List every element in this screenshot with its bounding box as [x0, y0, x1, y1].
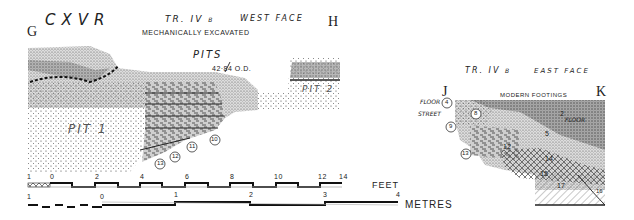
layer-5: 5: [545, 130, 549, 137]
west-face-label: WEST FACE: [240, 14, 304, 23]
feet-tick-0: 0: [50, 173, 54, 180]
metre-tick-1: 1: [27, 193, 31, 200]
west-face-section: [28, 46, 340, 172]
layer-9: 9: [449, 123, 452, 129]
site-code: CXVR: [45, 11, 110, 29]
east-floor-inner: FLOOR: [565, 116, 585, 123]
layer-11: 11: [189, 143, 195, 149]
east-floor-label: FLOOR: [420, 98, 440, 105]
section-drawing: [0, 0, 634, 220]
metre-tick-4: 4: [396, 191, 400, 198]
east-trench-label: TR. IV B: [465, 66, 511, 75]
feet-tick-10: 10: [274, 173, 283, 180]
marker-h: H: [328, 14, 338, 30]
feet-tick-4: 4: [140, 173, 144, 180]
layer-8: 8: [474, 110, 477, 116]
pits-label: PITS: [193, 49, 222, 60]
east-street-label: STREET: [418, 110, 441, 117]
pit1-label: PIT 1: [68, 122, 108, 136]
layer-2: 2: [560, 110, 564, 117]
pit2-label: PIT 2: [302, 84, 334, 94]
marker-g: G: [27, 24, 37, 40]
metre-tick-0: 0: [100, 193, 104, 200]
marker-k: K: [596, 84, 606, 100]
layer-14: 14: [545, 155, 553, 162]
level-od: 42·84 O.D.: [212, 65, 251, 72]
layer-4: 4: [445, 99, 448, 105]
feet-tick-12: 12: [318, 173, 327, 180]
metre-tick-3: 3: [323, 191, 327, 198]
layer-12-east: 12: [503, 143, 511, 150]
feet-tick-14: 14: [339, 173, 348, 180]
metre-tick-2: 2: [249, 191, 253, 198]
layer-17: 17: [557, 182, 565, 189]
feet-tick-6: 6: [185, 173, 189, 180]
excavation-note: MECHANICALLY EXCAVATED: [142, 29, 250, 36]
layer-16: 16: [596, 188, 603, 194]
metre-tick-m1: 1: [174, 191, 178, 198]
west-trench-label: TR. IV B: [165, 14, 214, 24]
layer-13-east: 13: [462, 150, 469, 156]
layer-15: 15: [540, 170, 548, 177]
marker-j: J: [442, 84, 447, 100]
scale-bars: [28, 183, 398, 207]
feet-tick-8: 8: [230, 173, 234, 180]
east-face-label: EAST FACE: [534, 67, 590, 75]
layer-13: 13: [157, 160, 164, 166]
feet-unit: FEET: [372, 180, 399, 190]
feet-tick-2: 2: [95, 173, 99, 180]
layer-12: 12: [172, 153, 179, 159]
metres-unit: METRES: [405, 199, 453, 210]
modern-footings: MODERN FOOTINGS: [500, 92, 567, 98]
feet-tick-1: 1: [27, 173, 31, 180]
layer-10: 10: [211, 136, 218, 142]
